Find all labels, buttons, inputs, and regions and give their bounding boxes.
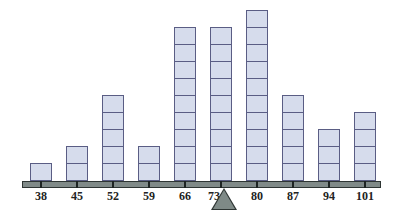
bar-59: [138, 147, 160, 181]
unit-block: [282, 112, 304, 130]
x-tick-label: 94: [314, 189, 344, 204]
x-tick-label: 52: [98, 189, 128, 204]
unit-block: [174, 95, 196, 113]
x-tick-label: 45: [62, 189, 92, 204]
unit-block: [66, 146, 88, 164]
unit-block: [354, 129, 376, 147]
tick-94: [328, 181, 330, 188]
unit-block: [246, 10, 268, 28]
tick-45: [76, 181, 78, 188]
unit-block: [210, 112, 232, 130]
unit-block: [102, 146, 124, 164]
bar-38: [30, 164, 52, 181]
tick-73: [220, 181, 222, 188]
unit-block: [102, 129, 124, 147]
bar-52: [102, 96, 124, 181]
unit-block: [282, 129, 304, 147]
x-tick-label: 59: [134, 189, 164, 204]
fulcrum-triangle-icon: [211, 188, 237, 210]
unit-block: [174, 27, 196, 45]
bar-101: [354, 113, 376, 181]
unit-block: [354, 112, 376, 130]
x-tick-label: 66: [170, 189, 200, 204]
unit-block: [282, 146, 304, 164]
unit-block: [282, 163, 304, 181]
unit-block: [246, 112, 268, 130]
unit-block: [174, 112, 196, 130]
x-tick-label: 101: [350, 189, 380, 204]
unit-block: [210, 146, 232, 164]
bar-94: [318, 130, 340, 181]
bar-80: [246, 11, 268, 181]
unit-block: [102, 95, 124, 113]
bar-73: [210, 28, 232, 181]
unit-block: [318, 146, 340, 164]
unit-block: [354, 163, 376, 181]
unit-block: [210, 78, 232, 96]
tick-101: [364, 181, 366, 188]
bar-45: [66, 147, 88, 181]
tick-59: [148, 181, 150, 188]
unit-block: [174, 61, 196, 79]
unit-block: [246, 95, 268, 113]
unit-block: [210, 129, 232, 147]
tick-66: [184, 181, 186, 188]
unit-block: [246, 61, 268, 79]
tick-87: [292, 181, 294, 188]
x-tick-label: 80: [242, 189, 272, 204]
unit-block: [174, 163, 196, 181]
tick-38: [40, 181, 42, 188]
unit-block: [246, 27, 268, 45]
x-tick-label: 38: [26, 189, 56, 204]
unit-block: [318, 163, 340, 181]
unit-block: [318, 129, 340, 147]
unit-block: [246, 163, 268, 181]
tick-52: [112, 181, 114, 188]
bar-87: [282, 96, 304, 181]
unit-block: [354, 146, 376, 164]
unit-block: [246, 44, 268, 62]
unit-block: [282, 95, 304, 113]
unit-block: [246, 129, 268, 147]
unit-block: [246, 146, 268, 164]
bar-66: [174, 28, 196, 181]
unit-block: [174, 129, 196, 147]
tick-80: [256, 181, 258, 188]
unit-block: [66, 163, 88, 181]
unit-block: [210, 27, 232, 45]
unit-block: [246, 78, 268, 96]
unit-block: [30, 163, 52, 181]
unit-block: [174, 146, 196, 164]
unit-block: [210, 61, 232, 79]
unit-block: [102, 112, 124, 130]
unit-block: [174, 44, 196, 62]
unit-block: [210, 95, 232, 113]
unit-block: [210, 163, 232, 181]
unit-block: [210, 44, 232, 62]
x-tick-label: 87: [278, 189, 308, 204]
unit-block: [174, 78, 196, 96]
unit-block: [138, 163, 160, 181]
unit-block: [102, 163, 124, 181]
balance-beam-chart: 384552596673808794101: [0, 0, 399, 217]
unit-block: [138, 146, 160, 164]
